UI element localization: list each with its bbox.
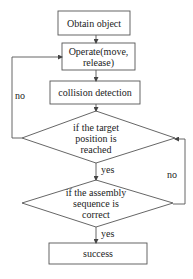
edge-label-sequence-yes: yes — [101, 228, 114, 239]
edge-label-target-yes: yes — [101, 164, 114, 175]
node-assembly-correct-label: if the assembly sequence is correct — [51, 185, 141, 221]
node-success-label: success — [49, 243, 147, 264]
node-target-reached-label: if the target position is reached — [56, 120, 136, 156]
node-operate-label: Operate(move, release) — [62, 43, 135, 70]
edge-label-sequence-no: no — [167, 169, 177, 180]
node-obtain-object-label: Obtain object — [58, 11, 130, 35]
edge-label-target-no: no — [15, 90, 25, 101]
node-collision-detection-label: collision detection — [50, 81, 140, 104]
flowchart-canvas: Obtain object Operate(move, release) col… — [0, 0, 193, 279]
